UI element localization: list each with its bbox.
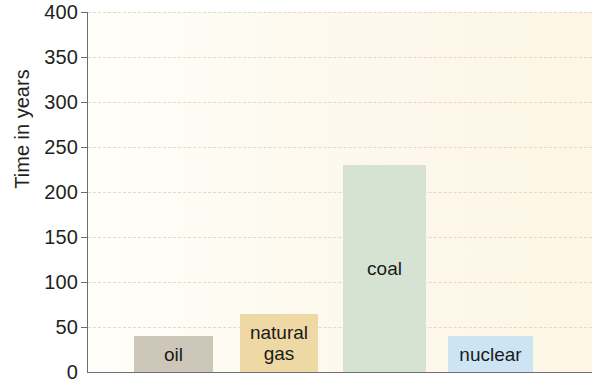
gridline-400 bbox=[88, 12, 592, 13]
gridline-300 bbox=[88, 102, 592, 103]
y-tick-label-50: 50 bbox=[4, 317, 78, 337]
bar-natural-gas[interactable]: naturalgas bbox=[240, 314, 318, 373]
bar-label-coal: coal bbox=[343, 258, 426, 279]
gridline-350 bbox=[88, 57, 592, 58]
y-axis-line bbox=[87, 12, 88, 373]
bar-label-nuclear: nuclear bbox=[448, 344, 533, 365]
gridline-200 bbox=[88, 192, 592, 193]
plot-area: oil naturalgas coal nuclear bbox=[88, 12, 592, 372]
y-axis-title: Time in years bbox=[11, 49, 33, 209]
y-tick-label-150: 150 bbox=[4, 227, 78, 247]
gridline-250 bbox=[88, 147, 592, 148]
bar-oil[interactable]: oil bbox=[134, 336, 213, 372]
y-tick-label-400: 400 bbox=[4, 2, 78, 22]
bar-nuclear[interactable]: nuclear bbox=[448, 336, 533, 372]
bar-coal[interactable]: coal bbox=[343, 165, 426, 372]
y-tick-label-100: 100 bbox=[4, 272, 78, 292]
bar-label-natural-gas: naturalgas bbox=[240, 322, 318, 364]
gridline-50 bbox=[88, 327, 592, 328]
gridline-100 bbox=[88, 282, 592, 283]
x-axis-line bbox=[87, 372, 592, 373]
chart-screenshot: 400 350 300 250 200 150 100 50 0 Time in… bbox=[0, 0, 592, 386]
gridline-150 bbox=[88, 237, 592, 238]
bar-label-oil: oil bbox=[134, 344, 213, 365]
y-tick-label-0: 0 bbox=[4, 362, 78, 382]
